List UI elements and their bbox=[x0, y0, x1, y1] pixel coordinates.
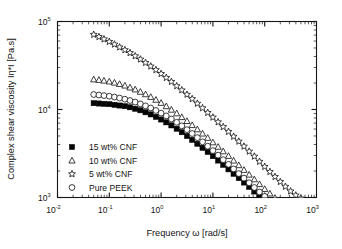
data-point bbox=[205, 149, 210, 154]
data-point bbox=[159, 117, 164, 122]
data-point bbox=[231, 166, 237, 172]
data-point bbox=[107, 102, 112, 107]
data-point bbox=[174, 126, 179, 131]
data-point bbox=[138, 108, 143, 113]
data-point bbox=[112, 102, 117, 107]
legend-label-2: 5 wt% CNF bbox=[89, 169, 132, 179]
data-point bbox=[189, 131, 195, 137]
data-point bbox=[133, 106, 138, 111]
chart-figure: 10-210-1100101102103 103104105 Frequency… bbox=[0, 0, 342, 249]
data-point bbox=[246, 180, 252, 186]
data-point bbox=[190, 137, 195, 142]
viscosity-log-log-plot: 10-210-1100101102103 103104105 Frequency… bbox=[0, 0, 342, 249]
data-point bbox=[215, 158, 220, 163]
data-point bbox=[169, 123, 174, 128]
data-point bbox=[91, 101, 96, 106]
data-point bbox=[184, 133, 189, 138]
data-point bbox=[179, 130, 184, 135]
data-point bbox=[241, 175, 247, 181]
legend-label-0: 15 wt% CNF bbox=[89, 142, 137, 152]
data-point bbox=[184, 127, 190, 133]
data-point bbox=[148, 112, 153, 117]
data-point bbox=[164, 120, 169, 125]
legend-marker-0 bbox=[69, 144, 74, 149]
data-point bbox=[194, 135, 200, 141]
x-axis-title: Frequency ω [rad/s] bbox=[146, 228, 227, 238]
data-point bbox=[251, 185, 257, 191]
data-point bbox=[236, 171, 242, 177]
data-point bbox=[101, 93, 107, 99]
data-point bbox=[122, 104, 127, 109]
data-point bbox=[215, 152, 221, 158]
data-point bbox=[221, 162, 226, 167]
data-point bbox=[96, 101, 101, 106]
data-point bbox=[153, 114, 158, 119]
data-point bbox=[210, 148, 216, 154]
legend-label-3: Pure PEEK bbox=[89, 183, 133, 193]
data-point bbox=[200, 139, 206, 145]
y-axis-title: Complex shear viscosity Iη*I [Pa.s] bbox=[6, 38, 16, 179]
data-point bbox=[195, 141, 200, 146]
legend-marker-3 bbox=[69, 185, 75, 191]
legend-label-1: 10 wt% CNF bbox=[89, 156, 137, 166]
data-point bbox=[179, 123, 185, 129]
data-point bbox=[127, 105, 132, 110]
data-point bbox=[210, 154, 215, 159]
data-point bbox=[168, 116, 174, 122]
data-point bbox=[220, 157, 226, 163]
data-point bbox=[257, 189, 263, 195]
data-point bbox=[117, 95, 123, 101]
data-point bbox=[205, 143, 211, 149]
data-point bbox=[143, 110, 148, 115]
data-point bbox=[117, 103, 122, 108]
data-point bbox=[200, 145, 205, 150]
data-point bbox=[101, 101, 106, 106]
data-point bbox=[174, 119, 180, 125]
data-point bbox=[226, 161, 232, 167]
